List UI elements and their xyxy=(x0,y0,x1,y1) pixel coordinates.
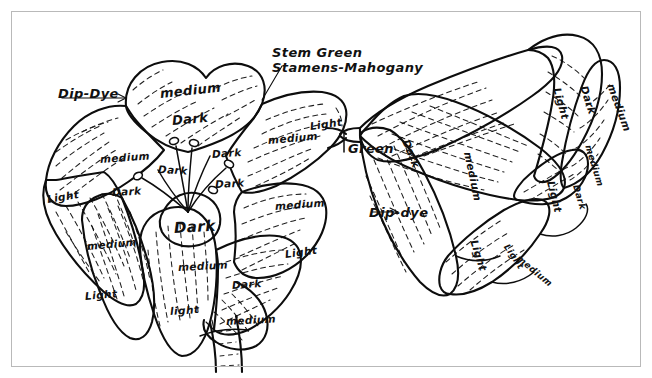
right-petal-bottom xyxy=(439,199,549,294)
sketch-canvas: Dip-DyeStem GreenStamens-MahoganyGreenDi… xyxy=(0,0,652,378)
shade-label-left-l4: Dark xyxy=(158,163,188,177)
shade-label-left-l11: Dark xyxy=(174,217,216,237)
callout-stamens: Stamens-Mahogany xyxy=(272,60,423,75)
shade-label-left-l16: Dark xyxy=(232,277,262,291)
shade-label-left-l2: Dark xyxy=(171,110,208,128)
callout-dip-dye-right: Dip-dye xyxy=(369,205,428,220)
callout-stem-green: Stem Green xyxy=(272,45,362,60)
callout-dip-dye-left: Dip-Dye xyxy=(58,86,119,101)
shade-label-left-l18: light xyxy=(170,303,200,317)
shade-label-left-l7: Dark xyxy=(212,146,242,160)
left-flower-art xyxy=(43,61,346,372)
shade-label-left-l10: Dark xyxy=(112,184,142,198)
petal-lower-left-inner xyxy=(82,194,154,339)
shade-label-left-l8: Dark xyxy=(215,176,245,190)
callout-green-stem: Green xyxy=(348,141,394,156)
